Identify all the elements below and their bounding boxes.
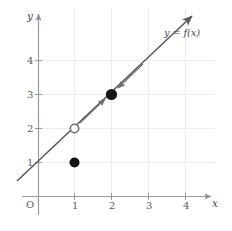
filled-point-marker-limit bbox=[106, 89, 117, 100]
x-tick-label-3: 3 bbox=[146, 201, 152, 211]
grid-lines-horizontal bbox=[38, 61, 215, 163]
y-tick-label-1: 1 bbox=[27, 158, 33, 168]
approach-arrow-left bbox=[80, 99, 105, 123]
y-axis-label: y bbox=[27, 11, 33, 22]
origin-label: O bbox=[26, 200, 34, 210]
function-limit-graph: y x O 1 2 3 4 1 2 3 4 y = f(x) bbox=[0, 0, 232, 231]
y-tick-label-4: 4 bbox=[27, 56, 33, 66]
x-tick-label-1: 1 bbox=[72, 201, 78, 211]
y-tick-label-3: 3 bbox=[27, 90, 33, 100]
function-curve-label: y = f(x) bbox=[164, 28, 200, 38]
open-point-marker bbox=[70, 124, 78, 132]
function-line bbox=[17, 16, 192, 181]
approach-arrow-right bbox=[118, 64, 143, 88]
x-axis-label: x bbox=[212, 198, 218, 209]
y-tick-label-2: 2 bbox=[27, 124, 33, 134]
filled-point-marker-lower bbox=[70, 158, 80, 168]
x-tick-label-2: 2 bbox=[109, 201, 115, 211]
x-tick-label-4: 4 bbox=[183, 201, 189, 211]
